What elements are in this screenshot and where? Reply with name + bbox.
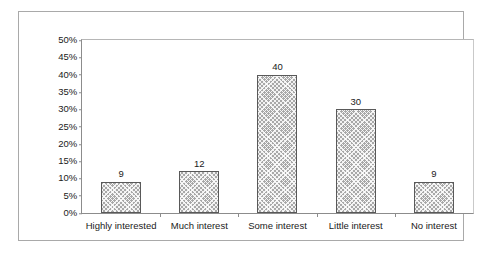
bar[interactable]: 9: [414, 182, 454, 213]
y-axis-tick-label: 10%: [58, 174, 82, 184]
y-axis-tick-label: 45%: [58, 53, 82, 63]
y-axis-tick-label: 25%: [58, 122, 82, 132]
bar-group: 40 Some interest: [238, 40, 316, 213]
x-axis-category-label: Much interest: [171, 221, 228, 231]
y-axis-tick-label: 30%: [58, 104, 82, 114]
bar-value-label: 40: [272, 62, 283, 72]
bar[interactable]: 9: [101, 182, 141, 213]
x-axis-tick-mark: [395, 213, 396, 217]
bar-value-label: 9: [431, 169, 436, 179]
y-axis-tick-label: 35%: [58, 87, 82, 97]
bar-value-label: 30: [350, 97, 361, 107]
x-axis-category-label: Some interest: [248, 221, 307, 231]
chart-frame: 50% 45% 40% 35% 30% 25% 20% 15% 10% 5% 0…: [18, 11, 464, 241]
bar-group: 9 Highly interested: [82, 40, 160, 213]
bar-group: 30 Little interest: [317, 40, 395, 213]
x-axis-category-label: Highly interested: [86, 221, 157, 231]
y-axis-tick-label: 50%: [58, 35, 82, 45]
x-axis-category-label: Little interest: [329, 221, 383, 231]
bar[interactable]: 30: [336, 109, 376, 213]
x-axis-tick-mark: [238, 213, 239, 217]
bar[interactable]: 40: [257, 75, 297, 213]
bar-group: 9 No interest: [395, 40, 473, 213]
plot-area: 50% 45% 40% 35% 30% 25% 20% 15% 10% 5% 0…: [81, 39, 474, 214]
y-axis-tick-label: 20%: [58, 139, 82, 149]
x-axis-tick-mark: [317, 213, 318, 217]
y-axis-tick-label: 40%: [58, 70, 82, 80]
y-axis-tick-label: 15%: [58, 156, 82, 166]
bar-group: 12 Much interest: [160, 40, 238, 213]
y-axis-tick-label: 5%: [63, 191, 82, 201]
x-axis-tick-mark: [160, 213, 161, 217]
bar-value-label: 12: [194, 159, 205, 169]
bar-value-label: 9: [118, 169, 123, 179]
bar[interactable]: 12: [179, 171, 219, 213]
y-axis-tick-label: 0%: [63, 208, 82, 218]
x-axis-category-label: No interest: [411, 221, 457, 231]
